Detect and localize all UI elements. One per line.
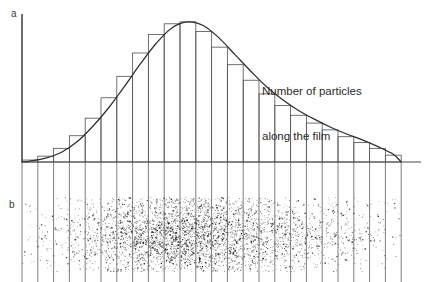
histogram-bar	[227, 65, 243, 162]
vertical-gridlines	[22, 162, 401, 282]
histogram-bar	[164, 24, 180, 162]
histogram-bar	[133, 53, 149, 162]
annotation-line-2: along the film	[262, 129, 362, 144]
histogram-bar	[196, 32, 212, 162]
annotation-text: Number of particles along the film	[262, 54, 362, 174]
histogram-bar	[212, 47, 228, 162]
histogram-bar	[117, 76, 133, 162]
annotation-line-1: Number of particles	[262, 84, 362, 99]
panel-label-a: a	[11, 9, 17, 19]
figure-canvas	[0, 0, 436, 282]
histogram-bar	[85, 118, 101, 162]
figure-container: a b Number of particles along the film	[0, 0, 436, 282]
histogram-bar	[180, 22, 196, 162]
histogram-bar	[243, 80, 259, 162]
histogram-bar	[148, 34, 164, 162]
panel-label-b: b	[9, 200, 15, 210]
histogram-bar	[370, 148, 386, 162]
histogram-bar	[69, 136, 85, 162]
